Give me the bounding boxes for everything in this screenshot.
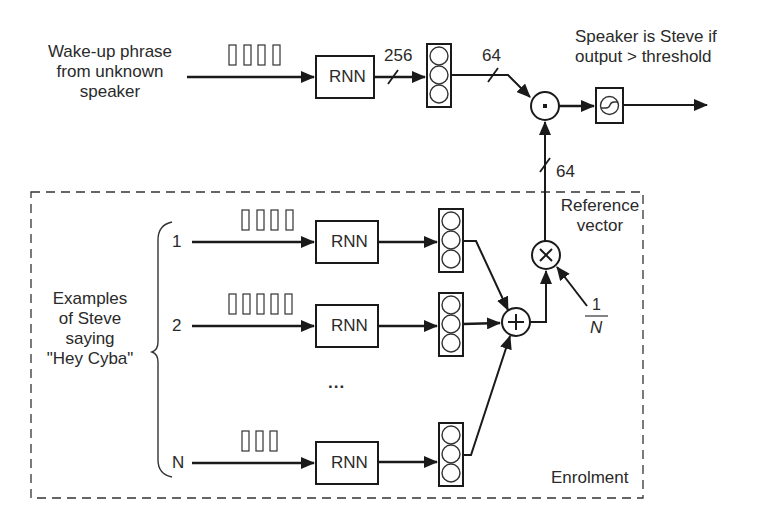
row2-rnn-label: RNN [331,316,368,336]
scale-denominator: N [590,318,602,338]
examples-label-line: Examples [30,289,150,309]
enrolment-title: Enrolment [551,468,628,488]
input-label-line: from unknown [30,62,190,82]
reference-label-line: vector [550,216,650,236]
row1-frames-icon [242,210,293,230]
output-label: Speaker is Steve if output > threshold [575,27,717,67]
dim-label-256: 256 [384,46,412,66]
rowN-frames-icon [242,431,277,451]
dim-label-64: 64 [482,46,501,66]
reference-dim-label: 64 [556,162,575,182]
rowN-rnn-label: RNN [331,453,368,473]
row2-embedding-vector [439,293,463,356]
arrow-sum-to-multiply [530,271,546,322]
rowN-embedding-vector [439,423,463,486]
input-label-line: Wake-up phrase [30,42,190,62]
top-embedding-vector [427,44,451,107]
examples-label-line: saying [30,329,150,349]
output-label-line: Speaker is Steve if [575,27,717,47]
row1-rnn-label: RNN [331,232,368,252]
sigmoid-block [596,88,623,123]
row1-index: 1 [172,232,181,252]
rowN-index: N [172,453,184,473]
ellipsis: ... [328,373,345,393]
arrow-row2-to-sum [463,323,500,324]
top-frames-icon [229,45,280,65]
row1-embedding-vector [439,209,463,272]
dot-icon [543,104,547,108]
row2-index: 2 [172,316,181,336]
examples-label-line: "Hey Cyba" [30,349,150,369]
row2-frames-icon [229,294,292,314]
reference-label-line: Reference [550,196,650,216]
examples-label-line: of Steve [30,309,150,329]
reference-vector-label: Reference vector [550,196,650,236]
input-label-line: speaker [30,82,190,102]
examples-label: Examples of Steve saying "Hey Cyba" [30,289,150,369]
arrow-row1-to-sum [463,241,508,310]
input-label: Wake-up phrase from unknown speaker [30,42,190,102]
examples-brace [152,222,172,477]
output-label-line: output > threshold [575,47,717,67]
scale-numerator: 1 [592,295,601,315]
top-rnn-label: RNN [329,67,366,87]
arrow-rowN-to-sum [463,336,510,455]
arrow-scale-to-multiply [557,267,587,306]
